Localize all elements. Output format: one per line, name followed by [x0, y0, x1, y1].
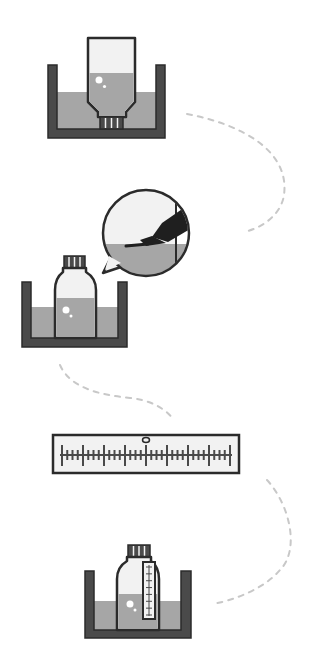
diagram-canvas	[0, 0, 316, 671]
step-2-bottle-bath-callout	[22, 190, 202, 347]
step-1-inverted-bottle-bath	[48, 38, 165, 138]
graduated-bottle-icon	[117, 545, 159, 630]
upright-bottle-icon	[55, 256, 96, 338]
step-4-graduated-bottle-bath	[85, 545, 191, 638]
connector-step1-to-step2	[187, 114, 284, 232]
bubble-icon	[63, 307, 70, 314]
connector-step3-to-step4	[213, 480, 291, 604]
connector-step2-to-step3	[60, 365, 174, 420]
bubble-icon	[70, 315, 73, 318]
bubble-icon	[96, 77, 103, 84]
step-3-ruler	[53, 435, 239, 473]
bubble-icon	[103, 85, 106, 88]
procedure-diagram	[0, 0, 316, 671]
bubble-icon	[134, 609, 137, 612]
dashed-connector-paths	[60, 114, 291, 604]
bubble-icon	[127, 601, 134, 608]
magnifier-callout-icon	[100, 190, 202, 284]
